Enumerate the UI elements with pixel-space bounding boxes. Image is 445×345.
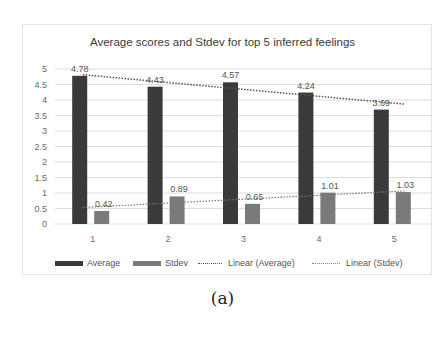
legend-item-average: Average [55,256,120,270]
y-tick-label: 1.5 [34,173,47,183]
bars [72,76,411,224]
stdev-bar [170,196,185,224]
data-label: 4.43 [146,75,164,85]
linear-stdev-swatch [312,263,340,264]
data-label: 0.42 [95,199,113,209]
data-label: 4.57 [222,70,240,80]
y-tick-label: 3 [42,126,47,136]
legend-item-linear-average: Linear (Average) [198,256,295,270]
x-tick-label: 1 [90,234,95,244]
y-tick-label: 4 [42,95,47,105]
x-tick-label: 5 [392,234,397,244]
y-tick-label: 1 [42,188,47,198]
data-label: 1.03 [397,180,415,190]
stdev-bar [94,211,109,224]
average-swatch [55,261,83,266]
data-label: 4.78 [71,64,89,74]
data-label: 1.01 [321,181,339,191]
legend-item-stdev: Stdev [133,256,188,270]
legend-label-stdev: Stdev [165,258,188,268]
x-tick-label: 4 [316,234,321,244]
legend-label-linear-average: Linear (Average) [228,258,295,268]
data-label: 4.24 [297,81,315,91]
data-label: 3.69 [373,98,391,108]
figure-caption: (a) [0,288,445,308]
legend-label-average: Average [87,258,120,268]
y-tick-label: 5 [42,64,47,74]
legend-label-linear-stdev: Linear (Stdev) [346,258,403,268]
x-tick-label: 3 [241,234,246,244]
y-tick-label: 0 [42,219,47,229]
average-bar [374,110,389,224]
stdev-swatch [133,261,161,266]
y-tick-label: 3.5 [34,111,47,121]
stdev-bar [396,192,411,224]
stdev-bar [320,193,335,224]
y-tick-label: 2.5 [34,142,47,152]
average-bar [223,82,238,224]
y-tick-label: 4.5 [34,80,47,90]
legend: Average Stdev Linear (Average) Linear (S… [0,256,445,270]
y-axis-ticks: 00.511.522.533.544.55 [34,64,47,229]
legend-item-linear-stdev: Linear (Stdev) [312,256,403,270]
x-axis-ticks: 12345 [90,234,397,244]
x-tick-label: 2 [166,234,171,244]
average-bar [72,76,87,224]
data-labels: 4.784.434.574.243.690.420.890.651.011.03 [71,64,414,209]
trendlines [83,75,405,208]
y-tick-label: 0.5 [34,204,47,214]
data-label: 0.89 [170,184,188,194]
average-bar [298,93,313,224]
data-label: 0.65 [246,192,264,202]
stdev-bar [245,204,260,224]
linear-average-swatch [198,263,222,264]
y-tick-label: 2 [42,157,47,167]
